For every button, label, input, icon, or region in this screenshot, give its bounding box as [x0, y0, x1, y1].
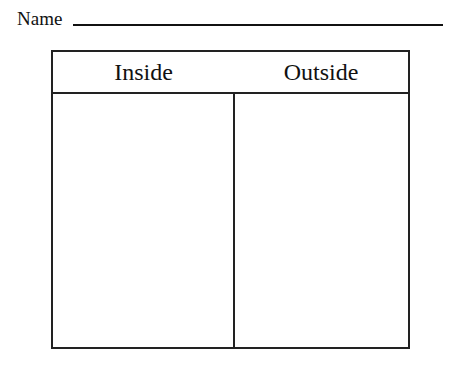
column-inside-area[interactable]	[53, 94, 233, 347]
name-label: Name	[17, 8, 62, 30]
column-outside-area[interactable]	[235, 94, 408, 347]
header-inside: Inside	[53, 52, 234, 92]
sorting-table: Inside Outside	[51, 50, 410, 349]
table-header: Inside Outside	[53, 52, 408, 94]
name-field-line[interactable]	[73, 24, 443, 26]
header-outside: Outside	[234, 52, 408, 92]
